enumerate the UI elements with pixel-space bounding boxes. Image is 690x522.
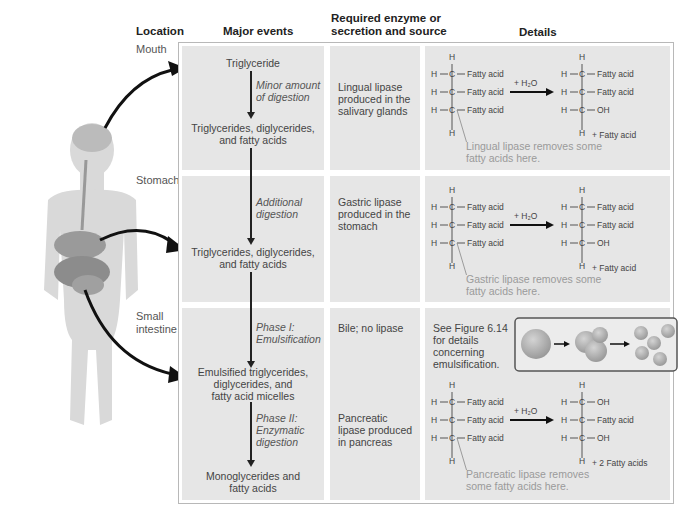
product-group: Fatty acid: [597, 69, 634, 79]
h-atom: H: [449, 185, 455, 195]
c-atom: C: [449, 202, 455, 212]
h-atom: H: [579, 185, 585, 195]
event-arrow-1: [250, 71, 252, 113]
result-emulsified-1: Emulsified triglycerides,: [181, 366, 325, 378]
c-atom: C: [579, 202, 585, 212]
h-atom: H: [431, 238, 437, 248]
lipase-note-2: fatty acids here.: [466, 152, 540, 164]
c-atom: C: [579, 105, 585, 115]
h-atom: H: [579, 380, 585, 390]
water-label: + H₂O: [514, 406, 537, 416]
product-group: OH: [597, 397, 610, 407]
reactant-group: Fatty acid: [467, 69, 504, 79]
h-atom: H: [449, 52, 455, 62]
enzyme-stomach-1: Gastric lipase: [338, 196, 402, 208]
event-triglyceride: Triglyceride: [181, 57, 325, 69]
arrowhead-icon: [247, 460, 255, 467]
reactant-group: Fatty acid: [467, 397, 504, 407]
process-additional-2: digestion: [256, 208, 298, 220]
chemistry-diagram: H H H H + H₂O + Fatty acidH C Fatty acid…: [430, 185, 670, 295]
lipase-note-2: some fatty acids here.: [466, 480, 569, 492]
product-group: OH: [597, 105, 610, 115]
header-major-events: Major events: [223, 25, 293, 38]
process-phase2-3: digestion: [256, 436, 298, 448]
c-atom: C: [449, 105, 455, 115]
h-atom: H: [561, 433, 567, 443]
byproduct-label: + Fatty acid: [592, 130, 636, 140]
result-emulsified-2: diglycerides, and: [181, 378, 325, 390]
h-atom: H: [449, 456, 455, 466]
h-atom: H: [579, 261, 585, 271]
h-atom: H: [449, 380, 455, 390]
product-group: OH: [597, 238, 610, 248]
enzyme-pancreatic-2: lipase produced: [338, 424, 412, 436]
byproduct-label: + Fatty acid: [592, 263, 636, 273]
result-stomach-2: and fatty acids: [181, 258, 325, 270]
h-atom: H: [449, 128, 455, 138]
event-arrow-2: [250, 175, 252, 240]
enzyme-pancreatic-3: in pancreas: [338, 436, 392, 448]
header-details: Details: [519, 26, 557, 39]
h-atom: H: [561, 105, 567, 115]
emulsification-illustration: [514, 317, 678, 372]
water-label: + H₂O: [514, 211, 537, 221]
c-atom: C: [449, 87, 455, 97]
process-additional-1: Additional: [256, 196, 302, 208]
c-atom: C: [579, 69, 585, 79]
h-atom: H: [431, 87, 437, 97]
h-atom: H: [561, 238, 567, 248]
product-group: Fatty acid: [597, 220, 634, 230]
figure-ref-3: concerning: [433, 346, 484, 358]
figure-ref-4: emulsification.: [433, 358, 500, 370]
h-atom: H: [431, 202, 437, 212]
c-atom: C: [449, 238, 455, 248]
reactant-group: Fatty acid: [467, 415, 504, 425]
reactant-group: Fatty acid: [467, 87, 504, 97]
enzyme-mouth-3: salivary glands: [338, 105, 407, 117]
h-atom: H: [561, 415, 567, 425]
c-atom: C: [579, 415, 585, 425]
chemistry-diagram: H H H H + H₂O + 2 Fatty acidsH C Fatty a…: [430, 380, 670, 490]
h-atom: H: [561, 69, 567, 79]
h-atom: H: [561, 87, 567, 97]
pointer-arrows: [0, 0, 190, 522]
product-group: Fatty acid: [597, 87, 634, 97]
lipase-note-1: Gastric lipase removes some: [466, 273, 601, 285]
process-phase2-1: Phase II:: [256, 412, 297, 424]
h-atom: H: [431, 105, 437, 115]
c-atom: C: [449, 397, 455, 407]
byproduct-label: + 2 Fatty acids: [592, 458, 648, 468]
arrowhead-icon: [247, 112, 255, 119]
c-atom: C: [449, 220, 455, 230]
enzyme-stomach-2: produced in the: [338, 208, 410, 220]
h-atom: H: [431, 69, 437, 79]
product-group: Fatty acid: [597, 202, 634, 212]
h-atom: H: [431, 433, 437, 443]
lipase-note-1: Lingual lipase removes some: [466, 140, 602, 152]
cell-stomach-enzyme: [329, 175, 421, 303]
process-minor-2: of digestion: [256, 91, 310, 103]
h-atom: H: [431, 220, 437, 230]
c-atom: C: [579, 397, 585, 407]
chemistry-diagram: H H H H + H₂O + Fatty acidH C Fatty acid…: [430, 52, 670, 162]
reactant-group: Fatty acid: [467, 105, 504, 115]
result-mono-2: fatty acids: [181, 482, 325, 494]
process-phase1-2: Emulsification: [256, 333, 321, 345]
h-atom: H: [579, 456, 585, 466]
h-atom: H: [561, 397, 567, 407]
result-mouth-1: Triglycerides, diglycerides,: [181, 122, 325, 134]
h-atom: H: [561, 202, 567, 212]
process-minor-1: Minor amount: [256, 79, 320, 91]
c-atom: C: [449, 415, 455, 425]
event-arrow-4: [250, 402, 252, 462]
h-atom: H: [579, 52, 585, 62]
cell-intestine-enzyme: [329, 307, 421, 501]
enzyme-mouth-2: produced in the: [338, 93, 410, 105]
result-stomach-1: Triglycerides, diglycerides,: [181, 246, 325, 258]
reactant-group: Fatty acid: [467, 238, 504, 248]
c-atom: C: [579, 220, 585, 230]
h-atom: H: [431, 397, 437, 407]
process-phase1-1: Phase I:: [256, 321, 295, 333]
enzyme-stomach-3: stomach: [338, 220, 378, 232]
connector-line: [250, 272, 252, 307]
